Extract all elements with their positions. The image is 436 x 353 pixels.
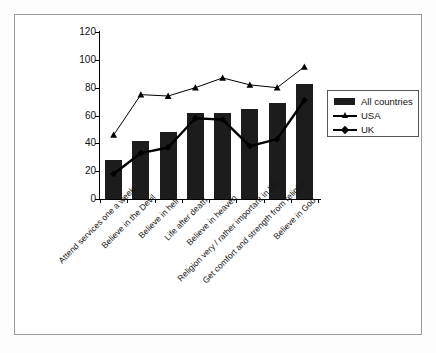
triangle-marker (219, 75, 226, 81)
line-diamond-marker-icon (333, 124, 357, 135)
x-tick-mark (318, 199, 319, 203)
y-tick-label: 0 (72, 194, 96, 204)
y-tick-label: 40 (72, 138, 96, 148)
x-tick-mark (209, 199, 210, 203)
x-tick-mark (182, 199, 183, 203)
legend-item-usa: USA (333, 109, 414, 122)
legend-label-all-countries: All countries (361, 97, 413, 107)
line-triangle-marker-icon (333, 110, 357, 121)
x-tick-mark (100, 199, 101, 203)
triangle-marker (192, 84, 199, 90)
bar-swatch-icon (333, 96, 357, 107)
legend-label-usa: USA (361, 111, 381, 121)
x-tick-mark (155, 199, 156, 203)
y-tick-label: 100 (72, 55, 96, 65)
chart-legend: All countries USA UK (327, 90, 419, 137)
x-tick-mark (264, 199, 265, 203)
legend-label-uk: UK (361, 125, 374, 135)
legend-item-uk: UK (333, 123, 414, 136)
triangle-marker (110, 132, 117, 138)
line-series-overlay (100, 32, 318, 199)
line-path (114, 100, 305, 174)
y-tick-label: 60 (72, 111, 96, 121)
y-tick-label: 120 (72, 27, 96, 37)
x-tick-mark (127, 199, 128, 203)
line-path (114, 67, 305, 135)
x-axis-line (99, 199, 321, 200)
triangle-marker (301, 63, 308, 69)
y-tick-label: 80 (72, 83, 96, 93)
x-tick-mark (236, 199, 237, 203)
legend-item-all-countries: All countries (333, 95, 414, 108)
x-tick-mark (291, 199, 292, 203)
chart-page: 020406080100120 Attend services one a we… (0, 0, 436, 353)
y-tick-label: 20 (72, 166, 96, 176)
